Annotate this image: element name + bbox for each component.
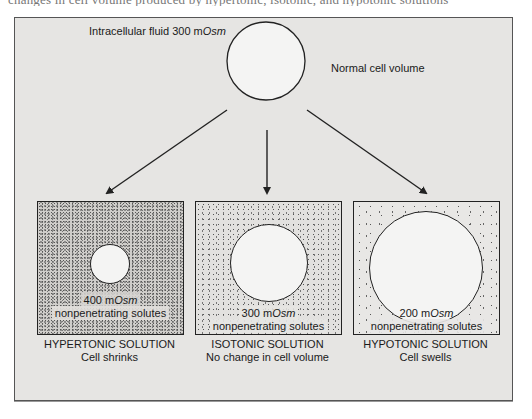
hypotonic-caption: HYPOTONIC SOLUTION Cell swells — [353, 338, 498, 364]
hypotonic-box: 200 mOsm nonpenetrating solutes — [353, 201, 500, 335]
solute-text: nonpenetrating solutes — [210, 319, 327, 333]
fluid-label-text: Intracellular fluid 300 m — [89, 25, 203, 37]
hypertonic-title: HYPERTONIC SOLUTION — [37, 338, 182, 351]
figure-caption: changes in cell volume produced by hyper… — [8, 0, 449, 6]
normal-cell-isotonic — [230, 224, 308, 302]
solute-text: nonpenetrating solutes — [368, 319, 485, 333]
arrow-to-hypertonic — [107, 110, 227, 193]
solute-text: nonpenetrating solutes — [52, 306, 169, 320]
hypertonic-subtitle: Cell shrinks — [37, 351, 182, 364]
arrow-to-hypotonic — [307, 110, 426, 193]
hypertonic-concentration: 400 mOsm — [38, 293, 183, 307]
conc-text: 300 m — [242, 307, 273, 319]
caption-clip: changes in cell volume produced by hyper… — [0, 0, 532, 6]
normal-cell-volume-label: Normal cell volume — [331, 62, 425, 74]
hypotonic-solutes: nonpenetrating solutes — [354, 319, 499, 333]
conc-text: 200 m — [400, 307, 431, 319]
isotonic-subtitle: No change in cell volume — [195, 351, 340, 364]
conc-unit: Osm — [272, 307, 295, 319]
conc-text: 400 m — [84, 294, 115, 306]
hypotonic-subtitle: Cell swells — [353, 351, 498, 364]
fluid-label-unit: Osm — [203, 25, 226, 37]
diagram-panel: Intracellular fluid 300 mOsm Normal cell… — [14, 17, 513, 401]
isotonic-caption: ISOTONIC SOLUTION No change in cell volu… — [195, 338, 340, 364]
isotonic-box: 300 mOsm nonpenetrating solutes — [195, 201, 342, 335]
intracellular-fluid-label: Intracellular fluid 300 mOsm — [89, 25, 226, 37]
isotonic-concentration: 300 mOsm — [196, 306, 341, 320]
isotonic-solutes: nonpenetrating solutes — [196, 319, 341, 333]
hypertonic-caption: HYPERTONIC SOLUTION Cell shrinks — [37, 338, 182, 364]
hypotonic-title: HYPOTONIC SOLUTION — [353, 338, 498, 351]
shrunken-cell — [90, 244, 130, 284]
conc-unit: Osm — [114, 294, 137, 306]
hypertonic-box: 400 mOsm nonpenetrating solutes — [37, 201, 184, 335]
isotonic-title: ISOTONIC SOLUTION — [195, 338, 340, 351]
normal-cell — [227, 22, 305, 100]
hypertonic-solutes: nonpenetrating solutes — [38, 306, 183, 320]
conc-unit: Osm — [430, 307, 453, 319]
hypotonic-concentration: 200 mOsm — [354, 306, 499, 320]
